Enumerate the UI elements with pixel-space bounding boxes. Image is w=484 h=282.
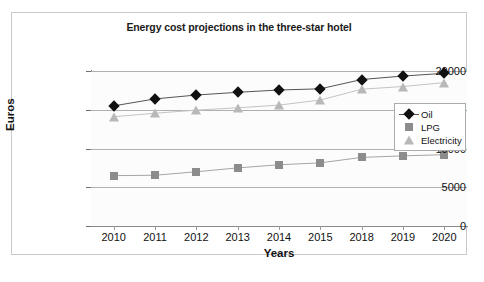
y-tick-mark [86, 187, 91, 188]
x-tick-label: 2011 [143, 231, 167, 243]
x-tick-label: 2013 [225, 231, 249, 243]
y-axis-label: Euros [4, 98, 16, 131]
data-point-lpg-2013 [234, 164, 242, 172]
x-tick-mark [196, 226, 197, 230]
data-point-electricity-2018 [357, 85, 367, 94]
y-tick-label: 5000 [404, 181, 466, 193]
triangle-marker-icon [404, 136, 414, 145]
x-tick-mark [320, 226, 321, 230]
x-tick-mark [444, 226, 445, 230]
data-point-lpg-2015 [316, 159, 324, 167]
legend-item-oil[interactable]: Oil [399, 108, 462, 120]
x-axis-label: Years [91, 247, 467, 259]
x-tick-mark [362, 226, 363, 230]
legend-item-lpg[interactable]: LPG [399, 121, 462, 133]
chart-legend: OilLPGElectricity [394, 103, 466, 151]
y-tick-mark [86, 149, 91, 150]
square-marker-icon [405, 123, 413, 131]
legend-key-triangle-icon [399, 135, 419, 145]
diamond-marker-icon [403, 108, 414, 119]
data-point-lpg-2011 [151, 171, 159, 179]
x-tick-label: 2012 [184, 231, 208, 243]
x-tick-label: 2014 [267, 231, 291, 243]
legend-label: LPG [421, 122, 440, 133]
chart-frame: Energy cost projections in the three-sta… [11, 12, 467, 255]
x-tick-label: 2015 [308, 231, 332, 243]
x-tick-label: 2019 [391, 231, 415, 243]
chart-title: Energy cost projections in the three-sta… [12, 21, 466, 33]
data-point-electricity-2015 [315, 96, 325, 105]
data-point-electricity-2011 [150, 109, 160, 118]
x-tick-mark [155, 226, 156, 230]
y-tick-label: 20000 [404, 65, 466, 77]
legend-label: Oil [421, 109, 433, 120]
data-point-electricity-2012 [191, 106, 201, 115]
data-point-lpg-2018 [358, 153, 366, 161]
data-point-electricity-2014 [274, 101, 284, 110]
legend-key-square-icon [399, 122, 419, 132]
y-tick-mark [86, 71, 91, 72]
data-point-electricity-2010 [109, 112, 119, 121]
legend-label: Electricity [421, 135, 462, 146]
data-point-electricity-2020 [439, 78, 449, 87]
x-tick-mark [279, 226, 280, 230]
data-point-lpg-2014 [275, 161, 283, 169]
legend-key-diamond-icon [399, 109, 419, 119]
x-tick-label: 2010 [101, 231, 125, 243]
data-point-electricity-2013 [233, 103, 243, 112]
data-point-electricity-2019 [398, 82, 408, 91]
data-point-lpg-2010 [110, 172, 118, 180]
x-tick-label: 2020 [432, 231, 456, 243]
x-tick-mark [403, 226, 404, 230]
data-point-lpg-2012 [192, 168, 200, 176]
y-tick-mark [86, 110, 91, 111]
x-tick-mark [114, 226, 115, 230]
x-tick-mark [238, 226, 239, 230]
legend-item-electricity[interactable]: Electricity [399, 134, 462, 146]
y-tick-mark [86, 226, 91, 227]
x-tick-label: 2018 [349, 231, 373, 243]
